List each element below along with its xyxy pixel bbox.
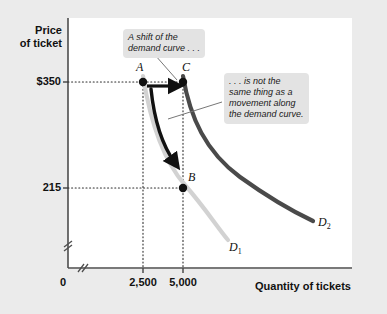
y-tick-label-215: 215 <box>22 181 61 193</box>
callout-movement-line1: . . . is not the <box>229 76 304 87</box>
callout-shift-of-demand-curve: A shift of the demand curve . . . <box>123 29 205 58</box>
callout-movement-line3: movement along <box>229 98 304 109</box>
data-point-a <box>139 78 147 86</box>
leader-line-shift <box>155 55 177 80</box>
y-axis-title-line1: Price <box>14 24 62 37</box>
point-label-c: C <box>182 60 190 75</box>
x-tick-label-5000: 5,000 <box>163 276 203 288</box>
x-axis-title: Quantity of tickets <box>255 280 351 293</box>
curve-label-d2-letter: D <box>318 215 327 229</box>
curve-label-d1-subscript: 1 <box>238 247 242 256</box>
callout-shift-line1: A shift of the <box>128 32 200 43</box>
y-axis-title-line2: of ticket <box>14 37 62 50</box>
origin-label: 0 <box>60 276 66 288</box>
callout-shift-line2: demand curve . . . <box>128 43 200 54</box>
callout-movement-line2: same thing as a <box>229 87 304 98</box>
data-point-c <box>179 78 187 86</box>
curve-label-d1: D1 <box>229 240 242 256</box>
curve-label-d2: D2 <box>318 215 331 231</box>
point-label-a: A <box>136 60 143 75</box>
figure-root: Price of ticket $350 215 0 2,500 5,000 Q… <box>0 0 387 314</box>
x-tick-label-2500: 2,500 <box>123 276 163 288</box>
curve-label-d2-subscript: 2 <box>327 222 331 231</box>
point-label-b: B <box>188 170 195 185</box>
curve-label-d1-letter: D <box>229 240 238 254</box>
y-tick-label-350: $350 <box>22 75 61 87</box>
y-axis-title: Price of ticket <box>14 24 62 50</box>
callout-movement-line4: the demand curve. <box>229 109 304 120</box>
data-point-b <box>179 184 187 192</box>
callout-movement-along-curve: . . . is not the same thing as a movemen… <box>224 73 309 124</box>
demand-curve-d1 <box>143 76 228 240</box>
